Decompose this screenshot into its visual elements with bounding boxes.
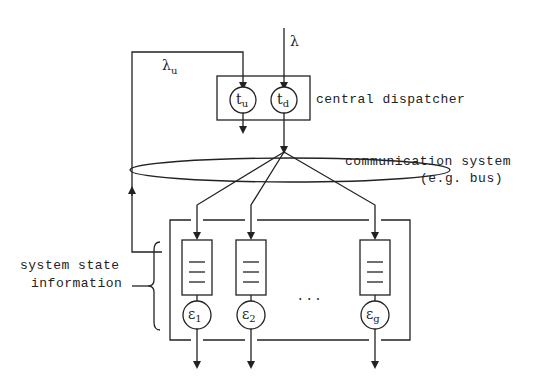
queue-1 [182, 240, 212, 365]
brace [148, 242, 160, 330]
dispatcher-label: central dispatcher [316, 92, 465, 107]
state-info-label-1: system state [20, 258, 120, 273]
state-info-label-2: information [31, 276, 122, 291]
lambda-label: λ [290, 33, 299, 49]
dispatcher-diagram: λ λu tu td ε1 ε2 εg . . . [0, 0, 555, 378]
queue-2 [236, 240, 266, 365]
comm-system-label: communication system [345, 154, 511, 169]
comm-example-label: (e.g. bus) [420, 171, 503, 186]
lambda-u-label: λu [162, 57, 178, 76]
feedback-line [132, 52, 243, 252]
ellipsis: . . . [298, 287, 320, 303]
queue-g [360, 240, 390, 365]
